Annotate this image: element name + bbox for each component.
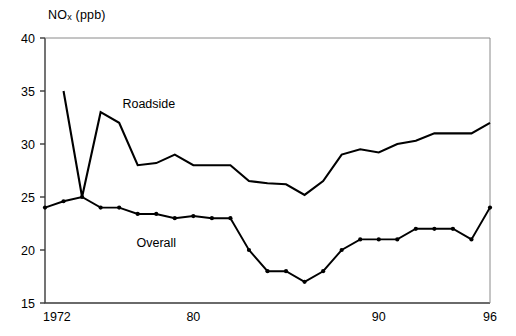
chart-figure: NOx (ppb) 152025303540 1972809096 Roadsi…: [0, 0, 516, 336]
data-point-marker: [358, 237, 362, 241]
line-chart-plot: 152025303540 1972809096 RoadsideOverall: [0, 0, 516, 336]
data-point-marker: [302, 280, 306, 284]
y-tick-label: 40: [21, 32, 35, 46]
series-line-overall: [45, 197, 490, 282]
data-point-marker: [191, 214, 195, 218]
x-tick-label: 80: [186, 310, 200, 324]
data-point-marker: [228, 216, 232, 220]
data-point-marker: [469, 237, 473, 241]
y-axis-tick-marks: [40, 38, 45, 303]
x-tick-label: 1972: [43, 310, 71, 324]
x-tick-label: 96: [483, 310, 497, 324]
data-point-marker: [340, 248, 344, 252]
data-point-marker: [451, 227, 455, 231]
data-point-marker: [43, 206, 47, 210]
data-point-marker: [80, 195, 84, 199]
data-point-marker: [265, 269, 269, 273]
data-point-marker: [432, 227, 436, 231]
data-point-marker: [488, 206, 492, 210]
data-point-marker: [173, 216, 177, 220]
x-axis-tick-labels: 1972809096: [43, 310, 497, 324]
y-tick-label: 15: [21, 297, 35, 311]
series-annotation-roadside: Roadside: [122, 97, 175, 111]
y-axis-tick-labels: 152025303540: [21, 32, 35, 311]
data-point-marker: [321, 269, 325, 273]
data-point-marker: [284, 269, 288, 273]
data-point-marker: [154, 212, 158, 216]
axis-frame: [45, 38, 490, 303]
data-point-marker: [414, 227, 418, 231]
y-tick-label: 35: [21, 85, 35, 99]
data-point-marker: [99, 206, 103, 210]
data-point-marker: [61, 199, 65, 203]
series-annotations-group: RoadsideOverall: [122, 97, 176, 250]
series-annotation-overall: Overall: [136, 236, 176, 250]
data-point-marker: [247, 248, 251, 252]
axis-spines: [45, 38, 490, 303]
data-point-marker: [395, 237, 399, 241]
data-point-marker: [117, 206, 121, 210]
data-point-marker: [210, 216, 214, 220]
data-series-group: [45, 91, 490, 282]
y-tick-label: 25: [21, 191, 35, 205]
data-point-marker: [377, 237, 381, 241]
y-tick-label: 30: [21, 138, 35, 152]
x-tick-label: 90: [372, 310, 386, 324]
data-point-marker: [136, 212, 140, 216]
y-tick-label: 20: [21, 244, 35, 258]
plot-border: [45, 38, 490, 303]
